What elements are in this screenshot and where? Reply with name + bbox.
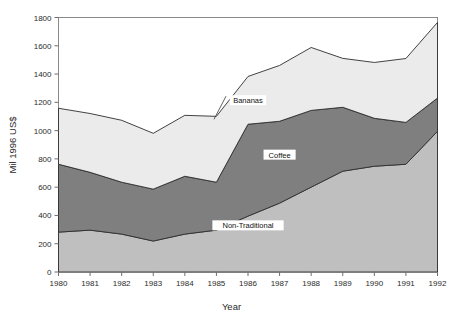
y-tick-label: 1600 <box>34 42 52 51</box>
y-tick-label: 1200 <box>34 98 52 107</box>
x-tick-label: 1990 <box>365 279 383 288</box>
stacked-area-chart: 020040060080010001200140016001800 198019… <box>0 0 463 319</box>
x-axis-title: Year <box>222 301 241 312</box>
x-tick-label: 1987 <box>271 279 289 288</box>
x-tick-label: 1982 <box>113 279 131 288</box>
x-tick-label: 1983 <box>144 279 162 288</box>
y-tick-label: 1400 <box>34 70 52 79</box>
x-tick-label: 1985 <box>208 279 226 288</box>
x-tick-label: 1992 <box>429 279 447 288</box>
chart-canvas: 020040060080010001200140016001800 198019… <box>0 0 463 319</box>
series-label-coffee: Coffee <box>264 150 296 160</box>
y-tick-label: 400 <box>38 211 52 220</box>
x-tick-label: 1984 <box>176 279 194 288</box>
series-label-bananas: Bananas <box>230 95 266 105</box>
y-tick-label: 800 <box>38 155 52 164</box>
x-tick-label: 1989 <box>334 279 352 288</box>
y-tick-label: 600 <box>38 183 52 192</box>
x-tick-label: 1991 <box>397 279 415 288</box>
x-tick-label: 1986 <box>239 279 257 288</box>
y-tick-label: 0 <box>47 268 52 277</box>
y-tick-label: 1000 <box>34 127 52 136</box>
x-tick-label: 1981 <box>81 279 99 288</box>
series-label-text: Bananas <box>233 96 263 105</box>
series-label-text: Non-Traditional <box>223 221 274 230</box>
series-label-non-traditional: Non-Traditional <box>212 220 283 230</box>
y-axis-title: Mil 1996 US$ <box>7 116 18 174</box>
y-tick-label: 1800 <box>34 14 52 23</box>
x-tick-label: 1980 <box>50 279 68 288</box>
series-label-text: Coffee <box>269 151 291 160</box>
x-tick-label: 1988 <box>302 279 320 288</box>
y-tick-label: 200 <box>38 240 52 249</box>
